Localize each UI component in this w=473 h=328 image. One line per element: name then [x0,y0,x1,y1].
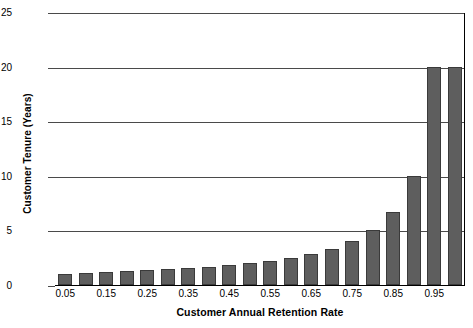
bar-slot [445,13,466,285]
bar-slot [424,13,445,285]
bar-slot [158,13,179,285]
bar[interactable] [386,212,400,285]
x-axis-tick-labels: 0.050.150.250.350.450.550.650.750.850.95 [55,288,465,304]
bar-chart: Customer Tenure (Years) 0510152025 0.050… [0,0,473,328]
bar[interactable] [448,67,462,285]
x-axis-tick-label: 0.15 [86,288,126,300]
x-axis-tick-label: 0.25 [127,288,167,300]
bar-slot [55,13,76,285]
x-axis-tick-label: 0.65 [291,288,331,300]
bar-slot [281,13,302,285]
bar[interactable] [120,271,134,285]
x-axis-tick-label: 0.05 [45,288,85,300]
bar[interactable] [407,176,421,285]
bar-slot [301,13,322,285]
bar-series [55,13,465,285]
y-axis-tick-label: 20 [0,63,12,73]
y-axis-tick-mark [48,231,55,232]
y-axis-tick-mark [48,68,55,69]
bar-slot [219,13,240,285]
bar-slot [178,13,199,285]
bar[interactable] [345,241,359,285]
x-axis-tick-label: 0.45 [209,288,249,300]
bar-slot [117,13,138,285]
x-axis-tick-label: 0.95 [414,288,454,300]
y-axis-tick-label: 15 [0,117,12,127]
y-axis-tick-label: 0 [0,281,12,291]
x-axis-title: Customer Annual Retention Rate [55,306,465,318]
bar[interactable] [243,263,257,285]
bar-slot [96,13,117,285]
y-axis-tick-mark [48,286,55,287]
bar-slot [199,13,220,285]
bar[interactable] [140,270,154,285]
bar-slot [240,13,261,285]
bar-slot [383,13,404,285]
bar-slot [76,13,97,285]
bar[interactable] [202,267,216,285]
bar[interactable] [99,272,113,285]
bar-slot [342,13,363,285]
y-axis-title: Customer Tenure (Years) [22,69,33,239]
x-axis-line [55,285,465,286]
x-axis-tick-label: 0.55 [250,288,290,300]
bar[interactable] [222,265,236,285]
bar[interactable] [366,230,380,285]
y-axis-tick-mark [48,122,55,123]
bar[interactable] [284,258,298,285]
bar-slot [137,13,158,285]
x-axis-tick-label: 0.85 [373,288,413,300]
bar-slot [363,13,384,285]
bar[interactable] [181,268,195,285]
x-axis-tick-label: 0.35 [168,288,208,300]
y-axis-tick-label: 10 [0,172,12,182]
bar[interactable] [79,273,93,285]
y-axis-line [464,13,465,286]
bar[interactable] [427,67,441,285]
bar[interactable] [161,269,175,285]
plot-area [55,13,465,286]
bar-slot [260,13,281,285]
y-axis-tick-label: 5 [0,226,12,236]
x-axis-tick-label: 0.75 [332,288,372,300]
bar[interactable] [304,254,318,285]
bar[interactable] [325,249,339,285]
bar-slot [322,13,343,285]
y-axis-tick-mark [48,13,55,14]
bar[interactable] [58,274,72,285]
y-axis-tick-mark [48,177,55,178]
bar-slot [404,13,425,285]
bar[interactable] [263,261,277,285]
y-axis-tick-label: 25 [0,8,12,18]
